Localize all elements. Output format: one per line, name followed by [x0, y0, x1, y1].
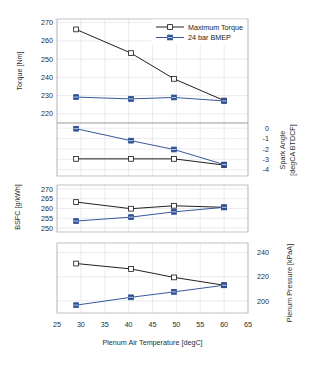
y-tick-label: 240 [257, 248, 269, 257]
x-tick-label: 55 [196, 320, 204, 329]
y-axis-label-spark-angle: Spark Angle [278, 131, 287, 170]
data-point-maximum-torque [172, 156, 177, 161]
y-tick-label: 220 [41, 109, 53, 118]
data-point-maximum-torque [74, 27, 79, 32]
x-tick-label: 45 [149, 320, 157, 329]
legend-label: Maximum Torque [188, 23, 243, 32]
data-point-maximum-torque [129, 51, 134, 56]
y-tick-label: -3 [263, 155, 269, 164]
data-point-maximum-torque [74, 261, 79, 266]
y-tick-label: 260 [41, 36, 53, 45]
data-point-maximum-torque [172, 203, 177, 208]
data-point-maximum-torque [74, 156, 79, 161]
y-tick-label: 250 [41, 224, 53, 233]
series-line-bmep-24bar [76, 97, 224, 101]
series-line-maximum-torque [76, 202, 224, 209]
x-tick-label: 50 [172, 320, 180, 329]
data-point-maximum-torque [172, 76, 177, 81]
y-tick-label: -1 [263, 134, 269, 143]
panel-4: 200220240 [57, 243, 269, 313]
y-tick-label: 230 [41, 91, 53, 100]
panel-2: 0-1-2-3-4 [57, 123, 269, 176]
y-tick-label: 270 [41, 18, 53, 27]
x-tick-label: 40 [125, 320, 133, 329]
x-axis: 253035404550556065Plenum Air Temperature… [53, 320, 252, 347]
y-axis-label-bsfc: BSFC [g/kWh] [13, 184, 22, 230]
legend-label: 24 bar BMEP [188, 33, 231, 42]
y-tick-label: 240 [41, 73, 53, 82]
series-line-bmep-24bar [76, 285, 224, 305]
data-point-maximum-torque [129, 156, 134, 161]
data-point-maximum-torque [172, 275, 177, 280]
x-tick-label: 60 [220, 320, 228, 329]
legend-marker [168, 25, 173, 30]
x-tick-label: 25 [53, 320, 61, 329]
x-tick-label: 65 [244, 320, 252, 329]
y-tick-label: 220 [257, 272, 269, 281]
data-point-maximum-torque [129, 267, 134, 272]
y-tick-label: 265 [41, 194, 53, 203]
y-axis-label-spark-angle-units: [degCA BTDCF] [288, 124, 297, 176]
x-tick-label: 30 [77, 320, 85, 329]
series-line-maximum-torque [76, 159, 224, 165]
series-line-bmep-24bar [76, 207, 224, 221]
y-tick-label: 250 [41, 55, 53, 64]
multi-panel-line-chart: 2202302402502602700-1-2-3-42502552602652… [0, 0, 310, 366]
chart-figure: 2202302402502602700-1-2-3-42502552602652… [0, 0, 310, 366]
y-axis-label-plenum-pressure: Plenum Pressure [kPaA] [285, 244, 294, 322]
data-point-maximum-torque [129, 206, 134, 211]
y-tick-label: 260 [41, 204, 53, 213]
y-tick-label: 0 [265, 124, 269, 133]
y-axis-label-torque: Torque [Nm] [15, 51, 24, 90]
y-tick-label: 200 [257, 297, 269, 306]
x-tick-label: 35 [101, 320, 109, 329]
y-tick-label: -2 [263, 145, 269, 154]
chart-legend: Maximum Torque24 bar BMEP [152, 20, 246, 44]
y-tick-label: 270 [41, 185, 53, 194]
y-tick-label: 255 [41, 214, 53, 223]
panel-3: 250255260265270 [41, 185, 248, 233]
series-line-maximum-torque [76, 264, 224, 286]
y-tick-label: -4 [263, 165, 269, 174]
x-axis-label: Plenum Air Temperature [degC] [102, 338, 202, 347]
data-point-maximum-torque [74, 200, 79, 205]
